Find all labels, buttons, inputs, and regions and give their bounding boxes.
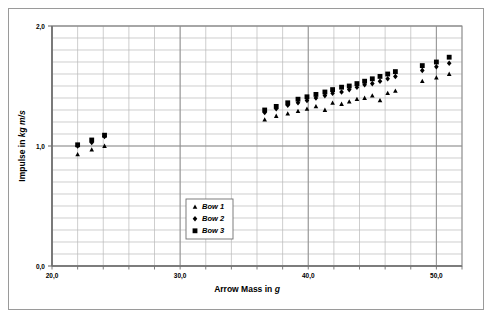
- legend-label: Bow 3: [202, 226, 225, 235]
- data-point-square: [393, 69, 398, 74]
- data-point-triangle: [347, 99, 352, 103]
- data-point-triangle: [355, 97, 360, 101]
- data-point-square: [262, 108, 267, 113]
- data-point-diamond: [393, 74, 398, 80]
- data-point-square: [274, 104, 279, 109]
- data-point-square: [355, 81, 360, 86]
- data-point-square: [305, 94, 310, 99]
- data-point-square: [420, 63, 425, 68]
- chart-legend: Bow 1Bow 2Bow 3: [186, 199, 233, 239]
- data-point-square: [339, 85, 344, 90]
- legend-label: Bow 1: [202, 202, 224, 211]
- series-1: [75, 72, 451, 157]
- data-point-triangle: [274, 114, 279, 118]
- data-point-square: [314, 92, 319, 97]
- x-tick-label: 40,0: [302, 272, 315, 280]
- data-point-diamond: [434, 64, 439, 70]
- chart-canvas: 20,030,040,050,0 0,01,02,0 Bow 1Bow 2Bow…: [0, 0, 494, 327]
- scatter-chart: 20,030,040,050,0 0,01,02,0 Bow 1Bow 2Bow…: [0, 0, 494, 327]
- series-3: [75, 55, 451, 147]
- data-point-square: [285, 100, 290, 105]
- data-point-triangle: [89, 147, 94, 151]
- x-tick-label: 30,0: [174, 272, 187, 280]
- y-tick-label: 1,0: [36, 143, 45, 151]
- data-point-square: [322, 90, 327, 95]
- x-tick-label: 50,0: [430, 272, 443, 280]
- data-point-square: [75, 142, 80, 147]
- data-point-triangle: [378, 98, 383, 102]
- data-point-triangle: [420, 79, 425, 83]
- y-tick-label: 2,0: [36, 23, 45, 31]
- data-point-diamond: [420, 68, 425, 74]
- data-point-square: [296, 97, 301, 102]
- y-tick-label: 0,0: [36, 263, 45, 271]
- data-point-square: [378, 74, 383, 79]
- legend-marker-square: [193, 228, 198, 233]
- data-point-triangle: [385, 91, 390, 95]
- data-point-triangle: [296, 109, 301, 113]
- x-axis-tick-labels: 20,030,040,050,0: [46, 272, 443, 280]
- data-series-layer: [75, 55, 451, 156]
- data-point-square: [347, 84, 352, 89]
- data-point-triangle: [339, 102, 344, 106]
- x-axis-title: Arrow Mass in g: [214, 284, 280, 294]
- data-point-triangle: [262, 117, 267, 121]
- data-point-square: [102, 133, 107, 138]
- data-point-square: [434, 60, 439, 65]
- data-point-triangle: [314, 104, 319, 108]
- data-point-triangle: [285, 111, 290, 115]
- x-tick-label: 20,0: [46, 272, 59, 280]
- data-point-diamond: [385, 76, 390, 82]
- data-point-square: [385, 72, 390, 77]
- data-point-square: [362, 79, 367, 84]
- data-point-diamond: [378, 78, 383, 84]
- legend-label: Bow 2: [202, 214, 225, 223]
- data-point-triangle: [434, 75, 439, 79]
- y-axis-title: Impulse in kg m/s: [17, 110, 27, 182]
- data-point-square: [89, 138, 94, 143]
- data-point-square: [370, 76, 375, 81]
- data-point-square: [447, 55, 452, 60]
- data-point-diamond: [339, 89, 344, 95]
- data-point-square: [330, 87, 335, 92]
- axis-tick-marks: [48, 26, 462, 270]
- data-point-triangle: [370, 93, 375, 97]
- data-point-diamond: [370, 81, 375, 87]
- y-axis-tick-labels: 0,01,02,0: [36, 23, 45, 271]
- data-point-diamond: [447, 60, 452, 66]
- data-point-triangle: [393, 88, 398, 92]
- data-point-triangle: [75, 152, 80, 156]
